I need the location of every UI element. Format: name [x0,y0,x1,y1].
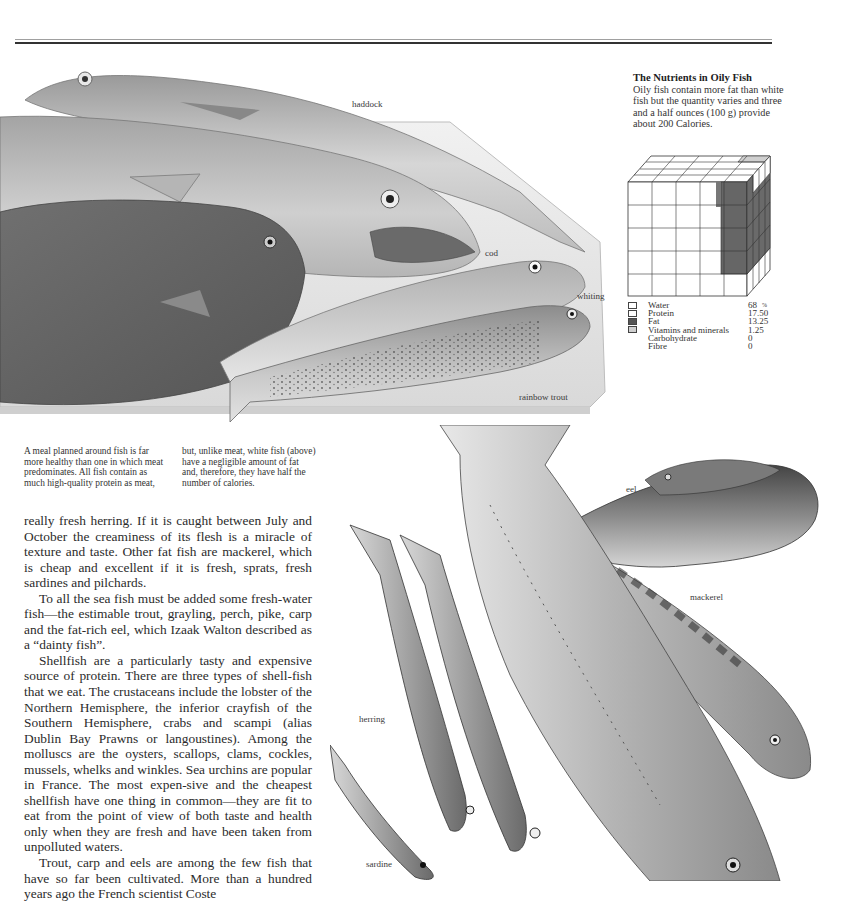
swatch-light-icon [628,326,637,333]
sidebar-body: Oily fish contain more fat than white fi… [633,84,793,129]
swatch-white-icon [628,310,637,317]
label-eel: eel [626,484,637,494]
article-body: really fresh herring. If it is caught be… [24,513,312,902]
header-rule-thick [15,42,772,44]
oily-fish-illustration [330,425,849,881]
legend-row-water: Water 68 % [628,301,778,309]
swatch-dark-icon [628,318,637,325]
header-rule [15,39,772,40]
legend-value: 68 [748,301,772,309]
legend-value: 0 [748,342,772,350]
label-sardine: sardine [366,859,392,869]
label-rainbow-trout: rainbow trout [519,392,568,402]
label-whiting: whiting [577,291,605,301]
paragraph: really fresh herring. If it is caught be… [24,513,312,591]
caption-column-2: but, unlike meat, white fish (above) hav… [182,446,317,489]
nutrient-cube-diagram [625,153,775,298]
legend-label: Fibre [648,342,748,350]
caption-column-1: A meal planned around fish is far more h… [24,446,164,489]
white-fish-illustration [0,62,620,422]
legend-label: Protein [648,309,748,317]
label-cod: cod [485,248,498,258]
legend-unit: % [762,301,767,309]
sidebar-title: The Nutrients in Oily Fish [633,72,793,84]
nutrient-legend: Water 68 % Protein 17.50 Fat 13.25 Vitam… [628,301,778,350]
legend-row-fibre: Fibre 0 [628,342,778,350]
nutrients-sidebar: The Nutrients in Oily Fish Oily fish con… [633,72,793,129]
paragraph: To all the sea fish must be added some f… [24,591,312,653]
swatch-white-icon [628,302,637,309]
label-haddock: haddock [352,99,383,109]
paragraph: Shellfish are a particularly tasty and e… [24,653,312,855]
label-herring: herring [359,714,385,724]
legend-label: Water [648,301,748,309]
paragraph: Trout, carp and eels are among the few f… [24,855,312,902]
label-mackerel: mackerel [690,592,723,602]
